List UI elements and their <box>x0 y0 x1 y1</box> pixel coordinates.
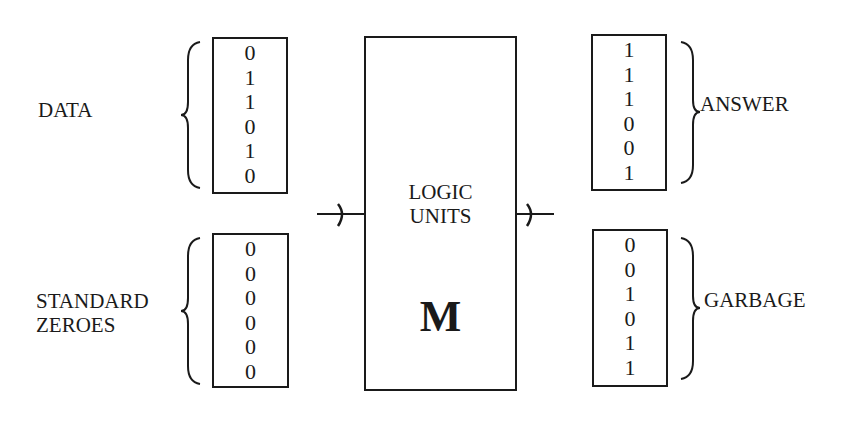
bit: 1 <box>624 161 635 186</box>
bit: 1 <box>625 331 636 356</box>
bit: 1 <box>245 90 256 115</box>
bit: 0 <box>625 307 636 332</box>
answer-register: 1 1 1 0 0 1 <box>591 34 667 191</box>
garbage-label: GARBAGE <box>704 288 806 312</box>
output-arrow-icon <box>516 200 556 230</box>
answer-label: ANSWER <box>700 92 789 116</box>
input-arrow-icon <box>316 200 366 230</box>
bit: 0 <box>245 237 256 262</box>
bit: 0 <box>624 136 635 161</box>
bit: 0 <box>625 233 636 258</box>
logic-units-box: LOGIC UNITS M <box>364 36 517 391</box>
bit: 1 <box>624 87 635 112</box>
garbage-register: 0 0 1 0 1 1 <box>592 229 668 387</box>
bit: 0 <box>245 311 256 336</box>
bit: 1 <box>624 63 635 88</box>
data-register: 0 1 1 0 1 0 <box>212 37 288 194</box>
standard-zeroes-label-line2: ZEROES <box>36 313 149 337</box>
bit: 0 <box>245 115 256 140</box>
bit: 0 <box>245 41 256 66</box>
standard-zeroes-label-line1: STANDARD <box>36 289 149 313</box>
standard-zeroes-label: STANDARD ZEROES <box>36 289 149 337</box>
bit: 1 <box>624 38 635 63</box>
bit: 0 <box>245 262 256 287</box>
logic-units-line2: UNITS <box>366 204 515 228</box>
bit: 1 <box>625 282 636 307</box>
bit: 0 <box>245 360 256 385</box>
data-label: DATA <box>38 98 92 122</box>
logic-units-symbol: M <box>366 305 515 329</box>
bit: 0 <box>624 112 635 137</box>
right-brace-icon <box>677 40 701 185</box>
bit: 1 <box>625 356 636 381</box>
logic-units-label: LOGIC UNITS <box>366 180 515 228</box>
bit: 0 <box>245 286 256 311</box>
bit: 0 <box>245 164 256 189</box>
bit: 0 <box>625 258 636 283</box>
bit: 0 <box>245 335 256 360</box>
bit: 1 <box>245 66 256 91</box>
logic-units-line1: LOGIC <box>366 180 515 204</box>
left-brace-icon <box>180 40 204 190</box>
standard-zeroes-register: 0 0 0 0 0 0 <box>212 233 289 388</box>
right-brace-icon <box>677 236 701 381</box>
left-brace-icon <box>180 236 204 386</box>
bit: 1 <box>245 139 256 164</box>
